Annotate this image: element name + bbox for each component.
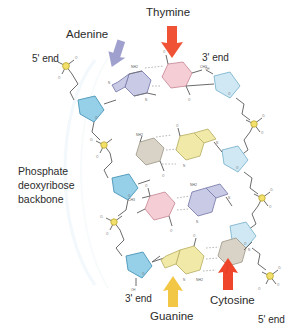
adenine-base-3: NH2 N N — [188, 183, 230, 224]
svg-text:O: O — [188, 98, 191, 102]
svg-text:O: O — [269, 205, 272, 209]
svg-text:N: N — [183, 164, 185, 168]
svg-text:N: N — [145, 98, 147, 102]
svg-text:O-: O- — [278, 266, 281, 270]
guanine-base-4: O N NH2 — [161, 234, 204, 282]
deoxyribose-left-1: O — [78, 96, 104, 122]
label-cytosine: Cytosine — [210, 294, 255, 308]
backbone-line-3: backbone — [18, 192, 75, 206]
svg-text:NH2: NH2 — [131, 65, 138, 69]
svg-text:O: O — [170, 229, 173, 233]
deoxyribose-right-1: O — [214, 72, 240, 98]
deoxyribose-left-2: O — [112, 174, 138, 200]
guanine-base-2: O N N — [176, 124, 218, 168]
svg-text:NH2: NH2 — [196, 278, 203, 282]
label-three-prime-end-bottom: 3' end — [125, 293, 152, 305]
label-thymine: Thymine — [146, 6, 190, 20]
svg-text:O: O — [162, 174, 165, 178]
thymine-base-1: O O CH3 — [162, 50, 207, 102]
label-adenine: Adenine — [66, 28, 108, 42]
svg-text:N: N — [183, 278, 185, 282]
label-phosphate-backbone: Phosphate deoxyribose backbone — [18, 164, 75, 207]
svg-text:N: N — [228, 196, 230, 200]
phosphate-group-left-2: O- O — [90, 138, 112, 159]
phosphate-group-right-3: O- O O — [258, 266, 281, 291]
svg-text:O-: O- — [100, 215, 103, 219]
svg-text:OH: OH — [131, 288, 136, 292]
phosphate-group-right-2: O- O — [254, 188, 273, 209]
svg-text:O: O — [96, 155, 99, 159]
svg-text:O: O — [163, 50, 166, 54]
adenine-arrow — [104, 38, 130, 70]
deoxyribose-right-2: O — [222, 146, 248, 172]
backbone-line-1: Phosphate — [18, 164, 75, 178]
svg-text:O: O — [58, 76, 61, 80]
svg-text:O: O — [145, 184, 148, 188]
backbone-line-2: deoxyribose — [18, 178, 75, 192]
svg-text:O: O — [75, 56, 78, 60]
label-five-prime-end-top: 5' end — [32, 53, 59, 65]
svg-text:NH2: NH2 — [190, 183, 197, 187]
label-three-prime-end-top: 3' end — [202, 52, 229, 64]
svg-text:O: O — [261, 131, 264, 135]
label-five-prime-end-bottom: 5' end — [258, 314, 285, 326]
svg-text:N: N — [196, 220, 198, 224]
svg-text:O: O — [258, 287, 261, 291]
adenine-base-1: NH2 N N — [108, 65, 151, 102]
base-pair-2-cytosine-guanine: O NH2 O N N — [136, 124, 222, 184]
svg-text:O: O — [277, 283, 280, 287]
label-guanine: Guanine — [150, 310, 193, 324]
svg-text:N: N — [248, 248, 250, 252]
svg-text:O-: O- — [262, 114, 265, 118]
svg-text:O: O — [193, 234, 196, 238]
svg-text:N: N — [108, 81, 110, 85]
svg-text:O-: O- — [90, 138, 93, 142]
phosphate-group-right-1: O- O — [246, 114, 265, 135]
svg-text:CH3: CH3 — [128, 198, 135, 202]
phosphate-group-left-3: O- O — [100, 215, 122, 236]
cytosine-base-2: O NH2 — [136, 133, 165, 178]
guanine-arrow — [163, 276, 183, 307]
svg-text:O-: O- — [270, 188, 273, 192]
svg-text:O: O — [106, 232, 109, 236]
svg-text:CH3: CH3 — [200, 65, 207, 69]
deoxyribose-left-3: O — [126, 252, 152, 278]
base-pair-4-guanine-cytosine: O N NH2 O N — [152, 234, 252, 282]
svg-text:O: O — [176, 124, 179, 128]
